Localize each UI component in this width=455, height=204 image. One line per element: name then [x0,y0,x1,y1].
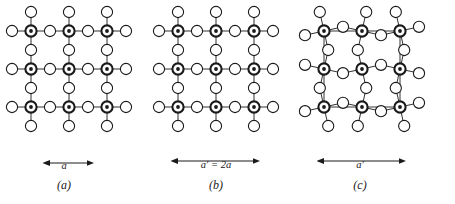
anion-circle [210,6,221,17]
anion-circle [101,120,112,131]
anion-circle [229,25,240,36]
anion-circle [248,120,259,131]
anion-circle [172,82,183,93]
anion-circle [323,120,334,131]
crystal-lattice-figure: a a′ = 2a a′ (a) (b) (c) [0,0,455,204]
anion-circle [172,6,183,17]
anion-circle [191,25,202,36]
anion-circle [390,82,401,93]
cation-center-dot [176,67,180,71]
anion-circle [25,82,36,93]
panel-caption-b: (b) [186,178,246,193]
cation-center-dot [360,105,364,109]
anion-circle [63,120,74,131]
anion-circle [210,82,221,93]
anion-circle [6,63,17,74]
anion-circle [172,44,183,55]
cation-center-dot [214,105,218,109]
anion-circle [101,82,112,93]
dimension-label-b: a′ = 2a [175,159,257,170]
cation-center-dot [29,29,33,33]
anion-circle [63,44,74,55]
anion-circle [63,6,74,17]
anion-circle [82,101,93,112]
anion-circle [210,120,221,131]
anion-circle [399,44,410,55]
dimension-label-c: a′ [322,159,398,170]
panel-a-lattice [6,6,131,131]
panel-c-lattice [299,6,424,131]
anion-circle [25,44,36,55]
anion-circle [153,25,164,36]
anion-circle [361,82,372,93]
cation-center-dot [398,105,402,109]
panel-caption-c: (c) [330,178,390,193]
dimension-label-a: a [34,160,94,171]
anion-circle [375,59,386,70]
cation-center-dot [67,29,71,33]
anion-circle [101,6,112,17]
anion-circle [314,6,325,17]
cation-center-dot [252,29,256,33]
anion-circle [267,63,278,74]
anion-circle [191,101,202,112]
anion-circle [6,101,17,112]
anion-circle [63,82,74,93]
anion-circle [210,44,221,55]
anion-circle [299,59,310,70]
cation-center-dot [105,67,109,71]
anion-circle [153,63,164,74]
anion-circle [25,6,36,17]
anion-circle [399,120,410,131]
anion-circle [299,30,310,41]
anion-circle [82,25,93,36]
anion-circle [120,101,131,112]
cation-center-dot [398,29,402,33]
cation-center-dot [176,105,180,109]
cation-center-dot [214,29,218,33]
anion-circle [413,21,424,32]
anion-circle [44,63,55,74]
cation-center-dot [252,67,256,71]
anion-circle [314,82,325,93]
anion-circle [323,44,334,55]
anion-circle [153,101,164,112]
anion-circle [229,63,240,74]
cation-center-dot [105,105,109,109]
anion-circle [361,6,372,17]
anion-circle [390,6,401,17]
anion-circle [375,106,386,117]
anion-circle [248,6,259,17]
cation-center-dot [29,105,33,109]
cation-center-dot [360,29,364,33]
anion-circle [82,63,93,74]
anion-circle [101,44,112,55]
cation-center-dot [176,29,180,33]
anion-circle [413,68,424,79]
cation-center-dot [252,105,256,109]
lattice-drawing [0,0,455,204]
anion-circle [120,63,131,74]
cation-center-dot [105,29,109,33]
cation-center-dot [322,29,326,33]
anion-circle [267,101,278,112]
cation-center-dot [214,67,218,71]
anion-circle [337,68,348,79]
anion-circle [267,25,278,36]
cation-center-dot [67,67,71,71]
cation-center-dot [322,105,326,109]
anion-circle [375,30,386,41]
anion-circle [352,44,363,55]
anion-circle [229,101,240,112]
cation-center-dot [398,67,402,71]
anion-circle [413,97,424,108]
anion-circle [248,44,259,55]
anion-circle [191,63,202,74]
cation-center-dot [29,67,33,71]
anion-circle [6,25,17,36]
anion-circle [25,120,36,131]
anion-circle [172,120,183,131]
anion-circle [44,25,55,36]
panel-b-lattice [153,6,278,131]
anion-circle [337,97,348,108]
